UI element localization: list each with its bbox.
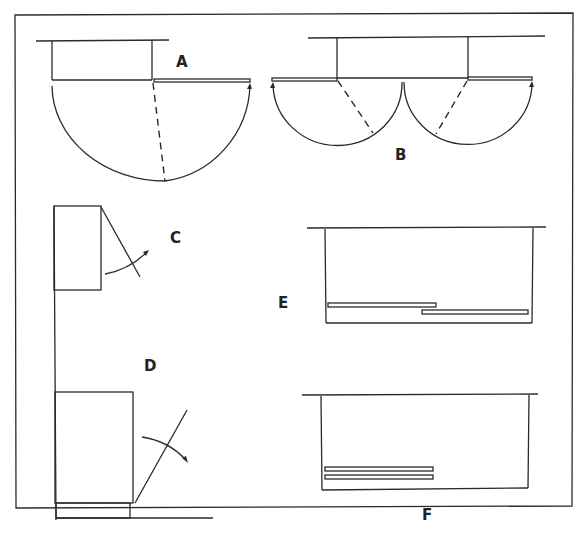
swing-arc-b-left <box>273 82 402 145</box>
swing-arc-a <box>52 85 250 181</box>
swing-arrow-d <box>142 437 185 459</box>
figure-b: B <box>270 36 545 164</box>
figure-f: F <box>302 394 538 524</box>
label-c: C <box>170 229 181 247</box>
door-types-diagram: A B C D <box>0 0 585 548</box>
arrowhead-icon <box>529 81 534 87</box>
figure-e: E <box>278 227 546 323</box>
arrowhead-icon <box>270 82 275 88</box>
label-d: D <box>144 357 156 375</box>
sliding-door-e-back <box>422 310 528 314</box>
figure-d: D <box>55 357 213 518</box>
label-e: E <box>278 294 288 312</box>
sliding-door-e-front <box>328 303 436 307</box>
label-b: B <box>395 146 406 164</box>
door-d <box>135 410 187 503</box>
sliding-door-f-bottom <box>325 475 433 479</box>
label-a: A <box>176 53 188 71</box>
figure-a: A <box>36 40 252 181</box>
door-leaf-b-left <box>272 78 337 81</box>
door-c <box>101 207 140 277</box>
swing-arrow-c <box>105 253 146 274</box>
sliding-door-f-top <box>325 467 433 471</box>
swing-arc-b-right <box>404 82 532 144</box>
figure-c: C <box>54 206 181 290</box>
diagram-frame <box>15 13 573 508</box>
door-leaf-b-right <box>468 77 532 80</box>
door-leaf-a <box>154 79 250 82</box>
label-f: F <box>422 506 432 524</box>
arrowhead-icon <box>247 83 252 89</box>
